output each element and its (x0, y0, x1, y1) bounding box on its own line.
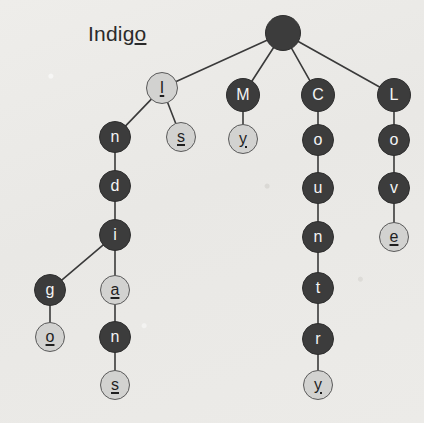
trie-node-L[interactable]: L (377, 78, 411, 112)
trie-edge (61, 245, 103, 281)
trie-edge (167, 102, 176, 124)
trie-node-M[interactable]: M (226, 78, 260, 112)
trie-edge (252, 47, 274, 81)
trie-node-label: n (111, 329, 120, 346)
trie-node-label: o (390, 132, 399, 149)
trie-edge (176, 40, 268, 82)
trie-node-label: M (236, 87, 249, 104)
trie-node-label: e (390, 229, 399, 246)
trie-node-Indian[interactable]: n (99, 321, 131, 353)
trie-node-Indi[interactable]: i (99, 219, 131, 251)
trie-node-label: s (177, 129, 185, 146)
trie-node-Lo[interactable]: o (378, 124, 410, 156)
trie-node-label: r (315, 331, 320, 348)
trie-node-label: n (111, 129, 120, 146)
trie-edge-layer (0, 0, 424, 423)
trie-node-label: v (390, 180, 398, 197)
trie-node-label: L (390, 87, 399, 104)
diagram-title: Indigo (88, 22, 146, 46)
trie-node-label: I (160, 80, 164, 97)
trie-node-Countr[interactable]: r (302, 323, 334, 355)
trie-node-Co[interactable]: o (302, 124, 334, 156)
trie-node-label: o (314, 132, 323, 149)
trie-node-label: u (314, 180, 323, 197)
trie-edge (291, 48, 310, 81)
trie-node-India[interactable]: a (100, 275, 130, 305)
trie-node-Indigo[interactable]: o (35, 322, 65, 352)
trie-node-My[interactable]: y (228, 124, 258, 154)
diagram-title-prefix: Indig (88, 22, 135, 45)
trie-node-Ind[interactable]: d (99, 170, 131, 202)
trie-node-Lov[interactable]: v (378, 172, 410, 204)
trie-node-Coun[interactable]: n (302, 221, 334, 253)
trie-node-label: g (46, 282, 55, 299)
trie-node-I[interactable]: I (146, 72, 178, 104)
trie-node-label: s (111, 377, 119, 394)
trie-node-label: n (314, 229, 323, 246)
trie-node-Indig[interactable]: g (34, 274, 66, 306)
trie-node-label: t (316, 280, 320, 297)
trie-node-In[interactable]: n (99, 121, 131, 153)
trie-node-label: y (314, 377, 322, 394)
trie-node-Country[interactable]: y (303, 370, 333, 400)
trie-node-Is[interactable]: s (166, 122, 196, 152)
trie-node-label: d (111, 178, 120, 195)
trie-node-root[interactable] (265, 15, 301, 51)
trie-diagram-canvas: Indigo IsndigoansMyCountryLove (0, 0, 424, 423)
diagram-title-underlined-suffix: o (135, 22, 147, 45)
trie-node-Count[interactable]: t (302, 272, 334, 304)
trie-node-Indians[interactable]: s (100, 370, 130, 400)
trie-node-label: i (113, 227, 117, 244)
trie-node-Cou[interactable]: u (302, 172, 334, 204)
trie-node-Love[interactable]: e (379, 222, 409, 252)
trie-node-label: o (46, 329, 55, 346)
trie-node-C[interactable]: C (301, 78, 335, 112)
trie-node-label: y (239, 131, 247, 148)
trie-edge (125, 99, 151, 126)
trie-node-label: a (111, 282, 120, 299)
trie-node-label: C (312, 87, 324, 104)
